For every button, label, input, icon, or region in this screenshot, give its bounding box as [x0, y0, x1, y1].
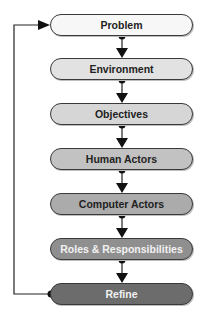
step-label: Refine: [105, 288, 137, 300]
step-label: Problem: [100, 19, 142, 31]
step-label: Computer Actors: [79, 198, 164, 210]
loop-arrow-icon: [38, 20, 50, 30]
step-refine: Refine: [50, 283, 193, 305]
step-computer-actors: Computer Actors: [50, 193, 193, 215]
step-problem: Problem: [50, 14, 193, 36]
step-label: Objectives: [95, 108, 148, 120]
step-objectives: Objectives: [50, 103, 193, 125]
step-label: Human Actors: [86, 153, 157, 165]
step-label: Environment: [89, 63, 153, 75]
loop-line: [14, 25, 51, 294]
step-human-actors: Human Actors: [50, 148, 193, 170]
flowchart-diagram: Problem Environment Objectives Human Act…: [0, 0, 207, 318]
step-environment: Environment: [50, 58, 193, 80]
step-roles-responsibilities: Roles & Responsibilities: [50, 238, 193, 260]
step-label: Roles & Responsibilities: [60, 243, 183, 255]
